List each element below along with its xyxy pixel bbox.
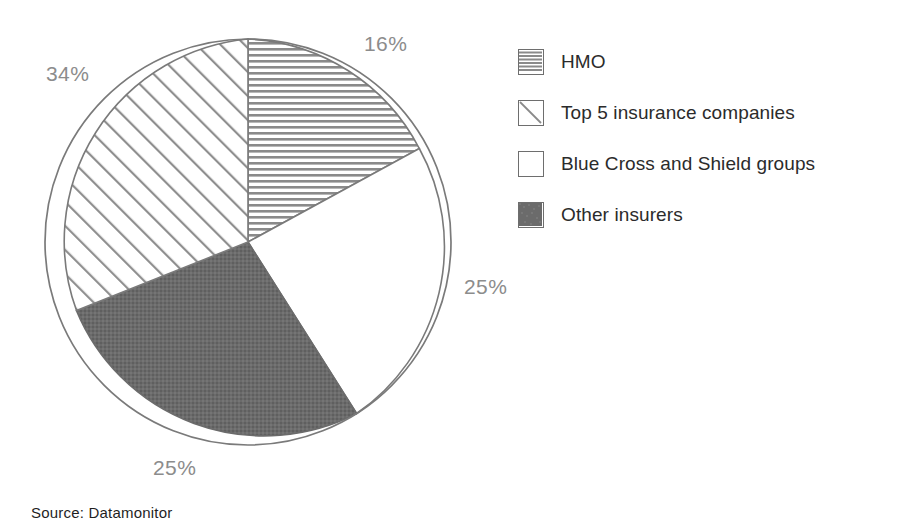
legend-label-other-insurers: Other insurers xyxy=(561,204,683,226)
swatch-diagonal-line-icon xyxy=(518,100,544,126)
legend: HMO Top 5 insurance companies Blue Cross… xyxy=(518,36,898,240)
pie-chart-graphic xyxy=(42,36,454,448)
swatch-solid-dark-icon xyxy=(518,202,544,228)
legend-label-hmo: HMO xyxy=(561,51,606,73)
pie-label-blue-cross-percent: 25% xyxy=(464,275,507,299)
pie-chart-figure: 16% 25% 25% 34% HMO xyxy=(0,0,922,531)
legend-item-other-insurers: Other insurers xyxy=(518,189,898,240)
pie-label-top5-percent: 34% xyxy=(46,62,89,86)
pie-svg xyxy=(42,36,454,448)
legend-label-blue-cross: Blue Cross and Shield groups xyxy=(561,153,815,175)
pie-label-hmo-percent: 16% xyxy=(364,32,407,56)
legend-item-top5: Top 5 insurance companies xyxy=(518,87,898,138)
legend-label-top5: Top 5 insurance companies xyxy=(561,102,795,124)
legend-item-blue-cross: Blue Cross and Shield groups xyxy=(518,138,898,189)
swatch-horizontal-lines-icon xyxy=(518,49,544,75)
swatch-white-icon xyxy=(518,151,544,177)
legend-item-hmo: HMO xyxy=(518,36,898,87)
pie-label-other-percent: 25% xyxy=(153,456,196,480)
source-note: Source: Datamonitor xyxy=(31,504,172,521)
